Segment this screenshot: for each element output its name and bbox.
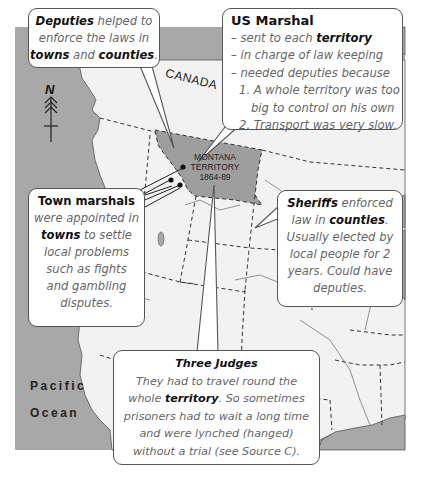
text: – needed deputies because	[231, 65, 402, 83]
ocean-line-2: Ocean	[30, 400, 86, 427]
ocean-label: Pacific Ocean	[30, 373, 86, 427]
compass-letter: N	[45, 82, 54, 97]
text: – in charge of law keeping	[231, 47, 402, 65]
territory-years: 1864-89	[180, 172, 250, 182]
text: without a trial (see Source C).	[114, 443, 319, 461]
great-salt-lake	[158, 232, 164, 246]
text: 1. A whole territory was too	[231, 82, 402, 100]
territory-name-1: MONTANA	[180, 152, 250, 162]
text: . So sometimes	[219, 392, 305, 405]
text: .	[154, 48, 158, 62]
text: years. Could have	[278, 263, 402, 280]
counties-term: counties	[329, 213, 385, 227]
territory-term: territory	[316, 31, 372, 45]
territory-name-2: TERRITORY	[180, 162, 250, 172]
text: local people for 2	[278, 246, 402, 263]
text: law in	[291, 213, 329, 227]
text: prisoners had to wait a long time	[114, 408, 319, 426]
ocean-line-1: Pacific	[30, 373, 86, 400]
text: They had to travel round the	[114, 373, 319, 391]
text: and	[69, 48, 98, 62]
counties-term: counties	[99, 48, 155, 62]
text: deputies.	[278, 280, 402, 297]
deputies-callout: Deputies helped to enforce the laws in t…	[28, 8, 160, 68]
town-marshals-title: Town marshals	[29, 193, 144, 210]
text: and were lynched (hanged)	[114, 425, 319, 443]
town-marshals-callout: Town marshals were appointed in towns to…	[28, 188, 145, 327]
territory-label: MONTANA TERRITORY 1864-89	[180, 152, 250, 182]
text: such as fights	[29, 261, 144, 278]
us-marshal-callout: US Marshal – sent to each territory – in…	[222, 8, 403, 130]
text: were appointed in	[29, 210, 144, 227]
sheriffs-callout: Sheriffs enforced law in counties. Usual…	[277, 190, 403, 307]
town-dot	[177, 182, 182, 187]
three-judges-callout: Three Judges They had to travel round th…	[113, 350, 320, 465]
text: local problems	[29, 244, 144, 261]
text: 2. Transport was very slow.	[231, 117, 402, 135]
us-marshal-title: US Marshal	[231, 12, 402, 30]
text: – sent to each	[231, 31, 316, 45]
text: enforced	[338, 196, 393, 210]
sheriffs-term: Sheriffs	[287, 196, 338, 210]
text: enforce the laws in	[29, 30, 159, 47]
text: Usually elected by	[278, 229, 402, 246]
text: whole	[128, 392, 165, 405]
territory-term: territory	[165, 392, 219, 405]
towns-term: towns	[41, 228, 80, 242]
deputies-term: Deputies	[36, 14, 94, 28]
town-dot	[168, 177, 173, 182]
text: disputes.	[29, 295, 144, 312]
text: big to control on his own	[231, 100, 402, 118]
three-judges-title: Three Judges	[114, 355, 319, 373]
text: to settle	[80, 228, 132, 242]
text: and gambling	[29, 278, 144, 295]
text: helped to	[94, 14, 153, 28]
text: .	[385, 213, 389, 227]
towns-term: towns	[30, 48, 69, 62]
